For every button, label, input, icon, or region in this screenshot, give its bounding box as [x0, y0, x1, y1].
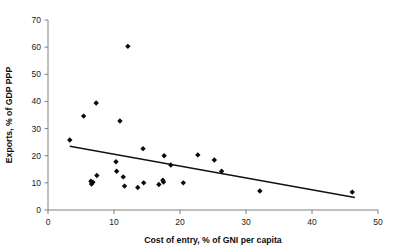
data-point-marker	[93, 100, 98, 105]
data-point-marker	[135, 185, 140, 190]
trendline-group	[70, 146, 355, 197]
y-tick-label: 30	[32, 124, 42, 134]
data-point-marker	[181, 180, 186, 185]
data-point-marker	[156, 182, 161, 187]
x-tick-label: 50	[373, 217, 383, 227]
y-tick-label: 50	[32, 69, 42, 79]
x-axis-title: Cost of entry, % of GNI per capita	[144, 235, 282, 245]
data-point-marker	[113, 159, 118, 164]
data-point-marker	[125, 44, 130, 49]
data-point-marker	[94, 173, 99, 178]
data-point-marker	[117, 118, 122, 123]
data-point-marker	[67, 137, 72, 142]
chart-canvas: 010203040506070 01020304050 Cost of entr…	[0, 0, 393, 251]
x-axis-group: 01020304050	[46, 210, 383, 227]
data-point-marker	[195, 152, 200, 157]
y-tick-label: 40	[32, 96, 42, 106]
x-tick-label: 30	[241, 217, 251, 227]
y-tick-label: 0	[36, 205, 41, 215]
data-point-marker	[141, 180, 146, 185]
data-point-marker	[140, 146, 145, 151]
x-tick-label: 10	[109, 217, 119, 227]
x-tick-label: 0	[46, 217, 51, 227]
data-point-marker	[114, 168, 119, 173]
y-tick-label: 70	[32, 15, 42, 25]
data-point-marker	[212, 157, 217, 162]
x-tick-label: 40	[307, 217, 317, 227]
data-point-marker	[81, 113, 86, 118]
data-point-marker	[161, 153, 166, 158]
y-axis-group: 010203040506070	[32, 15, 48, 215]
data-point-marker	[350, 189, 355, 194]
y-axis-title: Exports, % of GDP PPP	[4, 67, 14, 164]
y-tick-label: 20	[32, 151, 42, 161]
data-point-marker	[122, 183, 127, 188]
cropped-title	[0, 0, 393, 9]
data-point-marker	[121, 174, 126, 179]
x-tick-label: 20	[175, 217, 185, 227]
scatter-chart: 010203040506070 01020304050 Cost of entr…	[0, 0, 393, 251]
y-tick-label: 10	[32, 178, 42, 188]
trend-line	[70, 146, 355, 197]
data-point-marker	[257, 188, 262, 193]
y-tick-label: 60	[32, 42, 42, 52]
